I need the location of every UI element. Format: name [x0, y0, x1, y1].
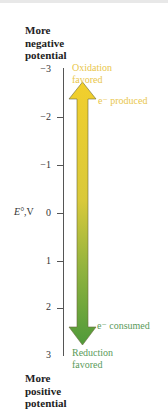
label-line: favored — [72, 359, 113, 371]
label-line: Reduction — [72, 347, 113, 359]
label-line: positive — [25, 385, 67, 398]
more-positive-potential-label: More positive potential — [25, 372, 67, 409]
label-line: More — [25, 372, 67, 385]
label-line: potential — [25, 397, 67, 409]
oxidation-favored-label: Oxidation favored — [72, 62, 112, 86]
label-line: Oxidation — [72, 62, 112, 74]
electrons-produced-label: e⁻ produced — [98, 95, 147, 107]
label-line: favored — [72, 74, 112, 86]
electrons-consumed-label: e⁻ consumed — [97, 320, 150, 332]
reduction-favored-label: Reduction favored — [72, 347, 113, 371]
